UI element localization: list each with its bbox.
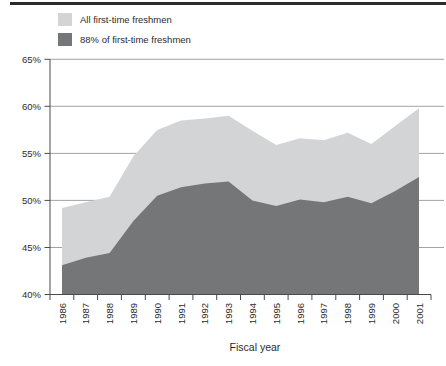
- svg-text:1997: 1997: [318, 303, 329, 324]
- svg-text:1986: 1986: [57, 303, 68, 324]
- svg-text:45%: 45%: [22, 242, 42, 253]
- svg-text:65%: 65%: [22, 54, 42, 65]
- svg-text:2001: 2001: [414, 303, 425, 324]
- svg-text:1993: 1993: [223, 303, 234, 324]
- svg-text:40%: 40%: [22, 289, 42, 300]
- svg-text:1998: 1998: [342, 303, 353, 324]
- svg-text:1992: 1992: [199, 303, 210, 324]
- svg-text:2000: 2000: [390, 303, 401, 324]
- svg-text:1995: 1995: [271, 303, 282, 324]
- svg-text:1996: 1996: [295, 303, 306, 324]
- svg-text:1991: 1991: [176, 303, 187, 324]
- svg-text:50%: 50%: [22, 195, 42, 206]
- svg-text:1990: 1990: [152, 303, 163, 324]
- svg-text:1987: 1987: [80, 303, 91, 324]
- svg-text:1999: 1999: [366, 303, 377, 324]
- x-axis-title: Fiscal year: [70, 341, 440, 353]
- figure: All first-time freshmen 88% of first-tim…: [0, 0, 446, 366]
- svg-text:1988: 1988: [104, 303, 115, 324]
- svg-text:1989: 1989: [128, 303, 139, 324]
- svg-text:1994: 1994: [247, 303, 258, 324]
- svg-text:60%: 60%: [22, 101, 42, 112]
- svg-text:55%: 55%: [22, 148, 42, 159]
- area-chart: 40%45%50%55%60%65%1986198719881989199019…: [0, 0, 446, 366]
